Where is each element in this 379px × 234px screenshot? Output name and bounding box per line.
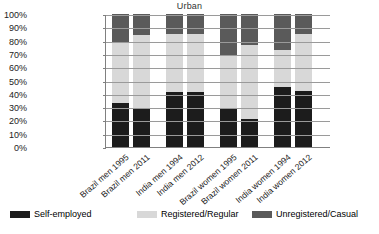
gridline bbox=[106, 28, 330, 29]
y-axis-tick-label: 80% bbox=[0, 37, 27, 47]
y-axis-tick-label: 100% bbox=[0, 10, 27, 20]
y-axis-labels: 100%90%80%70%60%50%40%30%20%10%0% bbox=[0, 0, 105, 234]
y-axis-tick bbox=[103, 121, 106, 122]
y-axis-tick-label: 0% bbox=[0, 143, 27, 153]
y-axis-tick bbox=[103, 55, 106, 56]
gridline bbox=[106, 135, 330, 136]
y-axis-tick bbox=[103, 82, 106, 83]
bar-stack bbox=[241, 14, 258, 147]
chart-legend: Self-employedRegistered/RegularUnregiste… bbox=[0, 210, 379, 228]
bar-segment-self-employed bbox=[133, 108, 150, 147]
bar-segment-registered-regular bbox=[166, 34, 183, 93]
y-axis-tick bbox=[103, 68, 106, 69]
bar-stack bbox=[274, 14, 291, 147]
bar-stack bbox=[187, 14, 204, 147]
legend-swatch-icon bbox=[137, 211, 157, 218]
y-axis-tick bbox=[103, 108, 106, 109]
y-axis-tick bbox=[103, 15, 106, 16]
y-axis-tick-label: 50% bbox=[0, 77, 27, 87]
bar-segment-self-employed bbox=[220, 108, 237, 147]
bar-stack bbox=[220, 14, 237, 147]
y-axis-tick-label: 90% bbox=[0, 23, 27, 33]
gridline bbox=[106, 68, 330, 69]
gridline bbox=[106, 82, 330, 83]
y-axis-tick-label: 10% bbox=[0, 130, 27, 140]
bar-segment-self-employed bbox=[241, 119, 258, 147]
gridline bbox=[106, 108, 330, 109]
legend-item: Self-employed bbox=[10, 210, 92, 219]
y-axis-tick-label: 60% bbox=[0, 63, 27, 73]
bar-segment-self-employed bbox=[112, 103, 129, 147]
legend-label: Unregistered/Casual bbox=[276, 210, 358, 219]
y-axis-tick-label: 30% bbox=[0, 103, 27, 113]
bar-segment-unregistered-casual bbox=[274, 14, 291, 50]
y-axis-tick bbox=[103, 95, 106, 96]
y-axis-tick bbox=[103, 135, 106, 136]
gridline bbox=[106, 95, 330, 96]
bar-segment-unregistered-casual bbox=[220, 14, 237, 55]
bar-segment-unregistered-casual bbox=[295, 14, 312, 34]
bar-segment-unregistered-casual bbox=[133, 14, 150, 35]
gridline bbox=[106, 15, 330, 16]
urban-stacked-bar-chart: Urban 100%90%80%70%60%50%40%30%20%10%0% … bbox=[0, 0, 379, 234]
bar-segment-registered-regular bbox=[187, 34, 204, 93]
bar-segment-self-employed bbox=[166, 92, 183, 147]
legend-item: Unregistered/Casual bbox=[252, 210, 358, 219]
bar-stack bbox=[133, 14, 150, 147]
y-axis-tick bbox=[103, 28, 106, 29]
y-axis-tick bbox=[103, 148, 106, 149]
legend-item: Registered/Regular bbox=[137, 210, 239, 219]
bar-segment-unregistered-casual bbox=[187, 14, 204, 34]
bar-stack bbox=[295, 14, 312, 147]
bar-stack bbox=[166, 14, 183, 147]
bar-segment-unregistered-casual bbox=[241, 14, 258, 45]
y-axis-tick-label: 70% bbox=[0, 50, 27, 60]
bar-segment-self-employed bbox=[274, 87, 291, 147]
y-axis-tick-label: 40% bbox=[0, 90, 27, 100]
legend-label: Self-employed bbox=[34, 210, 92, 219]
gridline bbox=[106, 121, 330, 122]
bar-segment-registered-regular bbox=[133, 35, 150, 108]
plot-area bbox=[105, 15, 330, 148]
legend-label: Registered/Regular bbox=[161, 210, 239, 219]
y-axis-tick bbox=[103, 42, 106, 43]
legend-swatch-icon bbox=[252, 211, 272, 218]
bar-segment-unregistered-casual bbox=[166, 14, 183, 34]
gridline bbox=[106, 42, 330, 43]
bar-segment-self-employed bbox=[295, 91, 312, 147]
bar-stack bbox=[112, 14, 129, 147]
legend-swatch-icon bbox=[10, 211, 30, 218]
bar-segment-self-employed bbox=[187, 92, 204, 147]
y-axis-tick-label: 20% bbox=[0, 116, 27, 126]
gridline bbox=[106, 55, 330, 56]
